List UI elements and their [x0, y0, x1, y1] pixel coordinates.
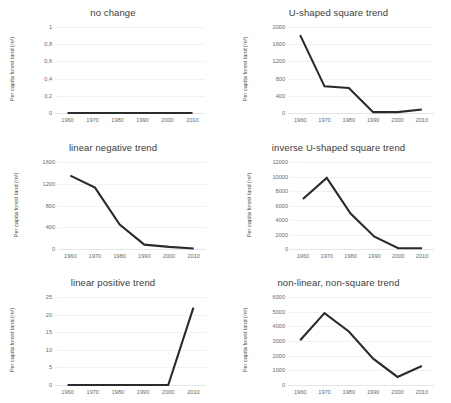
y-axis-tick-label: 4000	[276, 217, 291, 223]
y-axis-label: Per capita forest land (m²)	[12, 161, 18, 248]
y-axis-tick-label: 2000	[273, 24, 288, 30]
x-axis-tick-label: 2010	[187, 389, 199, 395]
plot-area: 00,20,40,60,81196019701980199020002010	[55, 27, 205, 113]
x-axis-tick-label: 1980	[111, 117, 123, 123]
gridline	[288, 113, 434, 114]
chart-panel: linear positive trendPer capita forest l…	[0, 270, 226, 403]
y-axis-tick-label: 400	[46, 224, 58, 230]
y-axis-tick-label: 20	[46, 312, 55, 318]
y-axis-tick-label: 5000	[273, 309, 288, 315]
x-axis-tick-label: 1990	[137, 389, 149, 395]
x-axis-tick-label: 1980	[343, 389, 355, 395]
x-axis-tick-label: 2010	[416, 389, 428, 395]
x-axis-tick-label: 1970	[87, 389, 99, 395]
chart-panel: U-shaped square trendPer capita forest l…	[226, 0, 451, 135]
gridline	[58, 249, 206, 250]
x-axis-tick-label: 1960	[297, 253, 309, 259]
y-axis-tick-label: 10	[46, 347, 55, 353]
y-axis-tick-label: 2000	[276, 232, 291, 238]
x-axis-tick-label: 2000	[391, 389, 403, 395]
series-line	[288, 297, 434, 385]
y-axis-tick-label: 1600	[43, 159, 58, 165]
y-axis-tick-label: 1200	[43, 181, 58, 187]
y-axis-tick-label: 25	[46, 294, 55, 300]
series-line	[58, 162, 206, 249]
y-axis-label: Per capita forest land (m²)	[245, 161, 251, 248]
plot-area: 040080012001600196019701980199020002010	[58, 162, 206, 249]
series-line	[55, 297, 206, 385]
x-axis-tick-label: 1980	[344, 253, 356, 259]
x-axis-tick-label: 1970	[86, 117, 98, 123]
y-axis-tick-label: 8000	[276, 188, 291, 194]
y-axis-label: Per capita forest land (m²)	[242, 296, 248, 384]
y-axis-tick-label: 10000	[272, 174, 291, 180]
x-axis-tick-label: 1990	[367, 389, 379, 395]
plot-area: 0200040006000800010000120001960197019801…	[291, 162, 434, 249]
x-axis-tick-label: 1980	[112, 389, 124, 395]
x-axis-tick-label: 2000	[391, 117, 403, 123]
y-axis-tick-label: 400	[276, 93, 288, 99]
chart-panel: non-linear, non-square trendPer capita f…	[226, 270, 451, 403]
plot-area: 0400800120016002000196019701980199020002…	[288, 27, 434, 113]
x-axis-tick-label: 1970	[318, 117, 330, 123]
chart-panel: linear negative trendPer capita forest l…	[0, 135, 226, 270]
y-axis-tick-label: 800	[276, 76, 288, 82]
chart-title: linear positive trend	[0, 277, 226, 288]
x-axis-tick-label: 1960	[294, 389, 306, 395]
x-axis-tick-label: 2000	[161, 117, 173, 123]
y-axis-tick-label: 6000	[273, 294, 288, 300]
y-axis-tick-label: 800	[46, 203, 58, 209]
y-axis-tick-label: 4000	[273, 323, 288, 329]
y-axis-tick-label: 0,8	[44, 41, 55, 47]
x-axis-tick-label: 2010	[187, 253, 199, 259]
x-axis-tick-label: 2010	[416, 253, 428, 259]
y-axis-tick-label: 1600	[273, 41, 288, 47]
x-axis-tick-label: 1990	[136, 117, 148, 123]
y-axis-tick-label: 0,6	[44, 58, 55, 64]
x-axis-tick-label: 2010	[416, 117, 428, 123]
x-axis-tick-label: 2000	[392, 253, 404, 259]
x-axis-tick-label: 1990	[367, 117, 379, 123]
chart-grid: no changePer capita forest land (m²)00,2…	[0, 0, 451, 403]
x-axis-tick-label: 1980	[113, 253, 125, 259]
y-axis-label: Per capita forest land (m²)	[242, 26, 248, 112]
x-axis-tick-label: 2000	[163, 253, 175, 259]
series-line	[291, 162, 434, 249]
chart-title: non-linear, non-square trend	[226, 277, 451, 288]
y-axis-tick-label: 1200	[273, 58, 288, 64]
x-axis-tick-label: 2010	[186, 117, 198, 123]
y-axis-tick-label: 6000	[276, 203, 291, 209]
y-axis-tick-label: 15	[46, 329, 55, 335]
x-axis-tick-label: 1990	[368, 253, 380, 259]
series-line	[288, 27, 434, 113]
x-axis-tick-label: 1970	[89, 253, 101, 259]
x-axis-tick-label: 1960	[61, 389, 73, 395]
x-axis-tick-label: 2000	[162, 389, 174, 395]
x-axis-tick-label: 1970	[321, 253, 333, 259]
y-axis-tick-label: 0,2	[44, 93, 55, 99]
x-axis-tick-label: 1960	[64, 253, 76, 259]
plot-area: 0100020003000400050006000196019701980199…	[288, 297, 434, 385]
y-axis-tick-label: 3000	[273, 338, 288, 344]
x-axis-tick-label: 1960	[294, 117, 306, 123]
y-axis-label: Per capita forest land (m²)	[9, 296, 15, 384]
y-axis-tick-label: 2000	[273, 353, 288, 359]
chart-panel: inverse U-shaped square trendPer capita …	[226, 135, 451, 270]
chart-title: no change	[0, 7, 226, 18]
x-axis-tick-label: 1970	[318, 389, 330, 395]
chart-title: linear negative trend	[0, 142, 226, 153]
y-axis-label: Per capita forest land (m²)	[9, 26, 15, 112]
chart-panel: no changePer capita forest land (m²)00,2…	[0, 0, 226, 135]
y-axis-tick-label: 0,4	[44, 76, 55, 82]
x-axis-tick-label: 1990	[138, 253, 150, 259]
x-axis-tick-label: 1980	[343, 117, 355, 123]
y-axis-tick-label: 1000	[273, 367, 288, 373]
x-axis-tick-label: 1960	[61, 117, 73, 123]
series-line	[55, 27, 205, 113]
y-axis-tick-label: 12000	[272, 159, 291, 165]
gridline	[288, 385, 434, 386]
chart-title: U-shaped square trend	[226, 7, 451, 18]
chart-title: inverse U-shaped square trend	[226, 142, 451, 153]
plot-area: 0510152025196019701980199020002010	[55, 297, 206, 385]
